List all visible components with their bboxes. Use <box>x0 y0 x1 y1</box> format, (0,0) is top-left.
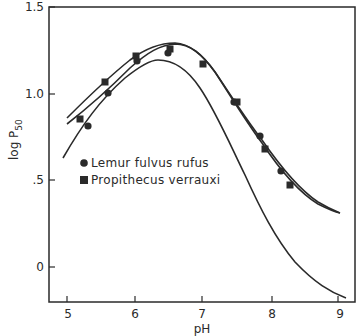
y-axis: 1.5 1.0 .5 0 <box>25 0 55 274</box>
x-axis: 5 6 7 8 9 <box>64 296 344 321</box>
legend-item-propithecus: Propithecus verrauxi <box>80 173 221 187</box>
y-axis-title-subscript: 50 <box>14 119 24 131</box>
legend-label: Lemur fulvus rufus <box>91 156 209 170</box>
lemur-data-point <box>256 132 263 139</box>
plot-frame <box>49 7 355 302</box>
x-tick-label: 7 <box>198 307 206 321</box>
propithecus-data-point <box>234 99 241 106</box>
x-tick-label: 8 <box>268 307 276 321</box>
y-tick-label: .5 <box>33 173 44 187</box>
propithecus-data-point <box>133 53 140 60</box>
x-tick-label: 9 <box>336 307 344 321</box>
propithecus-data-point <box>77 116 84 123</box>
y-axis-title: log P50 <box>7 119 24 160</box>
x-tick-label: 5 <box>64 307 72 321</box>
y-tick-label: 1.0 <box>25 87 44 101</box>
x-axis-title: pH <box>194 322 211 336</box>
square-marker-icon <box>80 176 88 184</box>
propithecus-data-point <box>200 61 207 68</box>
lemur-data-point <box>104 89 111 96</box>
svg-text:log P50: log P50 <box>7 119 24 160</box>
lemur-data-point <box>84 122 91 129</box>
propithecus-data-point <box>287 182 294 189</box>
propithecus-data-point <box>102 79 109 86</box>
x-tick-label: 6 <box>131 307 139 321</box>
legend-label: Propithecus verrauxi <box>91 173 221 187</box>
lemur-data-point <box>277 167 284 174</box>
propithecus-data-point <box>167 46 174 53</box>
legend-item-lemur: Lemur fulvus rufus <box>80 156 209 170</box>
circle-marker-icon <box>80 159 88 167</box>
y-axis-title-main: log P <box>7 131 21 160</box>
legend: Lemur fulvus rufus Propithecus verrauxi <box>80 156 221 187</box>
propithecus-fit-curve <box>67 43 340 213</box>
lemur-fit-curve <box>67 44 340 213</box>
propithecus-data-point <box>262 146 269 153</box>
y-tick-label: 0 <box>36 260 44 274</box>
chart-figure: 1.5 1.0 .5 0 5 6 7 8 9 pH log P50 <box>0 0 358 336</box>
y-tick-label: 1.5 <box>25 0 44 14</box>
